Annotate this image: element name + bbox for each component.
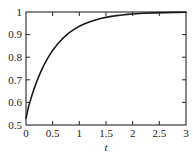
x-tick-label: 0: [23, 127, 29, 139]
x-tick-label: 1.5: [99, 127, 113, 139]
y-tick-label: 0.6: [8, 96, 22, 108]
x-tick-label: 3: [183, 127, 189, 139]
x-axis-tick-labels: 00.511.522.53: [23, 127, 189, 139]
x-tick-label: 1: [77, 127, 83, 139]
x-tick-label: 2.5: [152, 127, 166, 139]
x-axis-title: t: [104, 141, 108, 153]
y-axis-tick-labels: 0.50.60.70.80.91: [8, 6, 22, 131]
y-tick-label: 1: [17, 6, 23, 18]
x-tick-label: 0.5: [46, 127, 60, 139]
line-chart: 00.511.522.53 0.50.60.70.80.91 t: [0, 0, 193, 157]
x-tick-label: 2: [130, 127, 136, 139]
chart-figure: 00.511.522.53 0.50.60.70.80.91 t: [0, 0, 193, 157]
plot-area-background: [26, 12, 186, 125]
y-tick-label: 0.8: [8, 51, 22, 63]
y-tick-label: 0.5: [8, 119, 22, 131]
y-tick-label: 0.7: [8, 74, 22, 86]
y-tick-label: 0.9: [8, 28, 22, 40]
